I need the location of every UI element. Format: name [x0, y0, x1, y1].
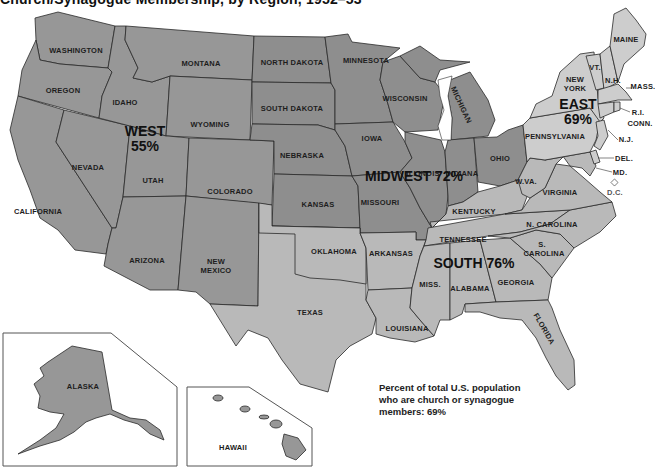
label-new-york-2: YORK: [564, 84, 587, 93]
label-alaska: ALASKA: [67, 382, 100, 391]
island-oahu: [240, 406, 250, 412]
region-midwest-label: MIDWEST 72%: [365, 168, 464, 184]
region-west-name: WEST: [125, 123, 166, 139]
label-north-carolina: N. CAROLINA: [526, 220, 578, 229]
label-louisiana: LOUISIANA: [385, 324, 428, 333]
hawaii-inset: HAWAII: [187, 387, 312, 466]
state-new-mexico: [178, 196, 259, 306]
label-pennsylvania: PENNSYLVANIA: [525, 132, 585, 141]
label-utah: UTAH: [142, 176, 163, 185]
label-ohio: OHIO: [490, 154, 510, 163]
label-maine: MAINE: [613, 35, 638, 44]
label-north-dakota: NORTH DAKOTA: [261, 58, 324, 67]
label-nebraska: NEBRASKA: [280, 151, 324, 160]
label-alabama: ALABAMA: [450, 284, 490, 293]
label-oregon: OREGON: [46, 86, 81, 95]
alaska-inset: ALASKA: [3, 333, 177, 466]
label-kentucky: KENTUCKY: [452, 207, 495, 216]
state-rhode-island: [614, 102, 620, 112]
leader-nj: [608, 130, 618, 140]
label-oklahoma: OKLAHOMA: [311, 247, 357, 256]
label-maryland: MD.: [613, 168, 627, 177]
label-new-mexico-1: NEW: [207, 257, 226, 266]
label-arkansas: ARKANSAS: [369, 249, 413, 258]
label-connecticut: CONN.: [627, 119, 652, 128]
label-mississippi: MISS.: [419, 280, 440, 289]
label-new-mexico-2: MEXICO: [201, 266, 232, 275]
label-south-carolina-2: CAROLINA: [523, 249, 565, 258]
state-michigan-lower: [448, 72, 495, 140]
region-east-name: EAST: [559, 96, 597, 112]
label-new-jersey: N.J.: [619, 135, 634, 144]
note-line-2: who are church or synagogue: [379, 394, 559, 406]
label-iowa: IOWA: [362, 134, 383, 143]
island-maui: [270, 420, 282, 428]
note-line-1: Percent of total U.S. population: [379, 382, 559, 394]
label-tennessee: TENNESSEE: [439, 235, 486, 244]
state-montana: [125, 26, 254, 82]
state-wyoming: [166, 76, 252, 140]
state-maine: [610, 8, 646, 82]
label-virginia: VIRGINIA: [543, 188, 578, 197]
label-nevada: NEVADA: [72, 163, 105, 172]
label-rhode-island: R.I.: [632, 108, 644, 117]
label-new-york-1: NEW: [566, 75, 585, 84]
region-east-pct: 69%: [564, 111, 593, 127]
label-texas: TEXAS: [297, 308, 323, 317]
label-wyoming: WYOMING: [191, 120, 230, 129]
label-hawaii: HAWAII: [219, 443, 247, 452]
state-washington: [35, 12, 115, 68]
island-kauai: [213, 395, 223, 401]
label-massachusetts: MASS.: [631, 82, 655, 91]
region-south-label: SOUTH 76%: [434, 255, 515, 271]
state-connecticut: [598, 102, 614, 118]
label-california: CALIFORNIA: [14, 207, 63, 216]
label-delaware: DEL.: [615, 154, 633, 163]
region-west-pct: 55%: [131, 138, 160, 154]
label-wisconsin: WISCONSIN: [382, 94, 427, 103]
island-molokai: [259, 415, 269, 419]
label-georgia: GEORGIA: [498, 278, 535, 287]
leader-ri: [620, 108, 630, 112]
label-minnesota: MINNESOTA: [343, 56, 390, 65]
label-kansas: KANSAS: [302, 200, 335, 209]
label-colorado: COLORADO: [207, 187, 252, 196]
state-florida: [465, 300, 575, 390]
label-missouri: MISSOURI: [361, 198, 400, 207]
leader-md: [596, 168, 612, 172]
dc-marker: [611, 179, 618, 186]
label-south-carolina-1: S.: [538, 240, 546, 249]
label-idaho: IDAHO: [112, 98, 137, 107]
label-new-hampshire: N.H.: [605, 76, 621, 85]
label-dc: D.C.: [607, 188, 623, 197]
label-west-virginia: W.VA.: [515, 177, 537, 186]
label-south-dakota: SOUTH DAKOTA: [261, 104, 324, 113]
label-vermont: VT.: [589, 63, 600, 72]
national-total-note: Percent of total U.S. population who are…: [379, 382, 559, 418]
label-washington: WASHINGTON: [49, 46, 103, 55]
label-montana: MONTANA: [181, 59, 221, 68]
label-arizona: ARIZONA: [129, 256, 165, 265]
note-line-3: members: 69%: [379, 406, 559, 418]
